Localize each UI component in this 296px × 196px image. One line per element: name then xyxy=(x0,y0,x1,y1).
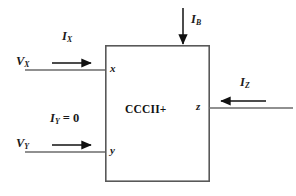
terminal-label-x: x xyxy=(110,63,116,74)
vy-label: VY xyxy=(16,137,29,150)
vx-label: VX xyxy=(16,55,30,68)
terminal-label-z: z xyxy=(196,101,200,112)
ix-label: IX xyxy=(62,30,72,43)
diagram-canvas xyxy=(0,0,296,196)
ib-label: IB xyxy=(191,13,201,26)
vx-subscript: X xyxy=(24,60,29,69)
iz-subscript: Z xyxy=(245,81,250,90)
iz-label: IZ xyxy=(240,76,250,89)
vy-subscript: Y xyxy=(24,142,29,151)
cccii-block-diagram: CCCII+ x y z VX VY IX IY = 0 IB IZ xyxy=(0,0,296,196)
iy-subscript: Y xyxy=(55,117,60,126)
ix-subscript: X xyxy=(67,35,72,44)
ib-subscript: B xyxy=(196,18,201,27)
block-label: CCCII+ xyxy=(125,103,167,115)
iy-label: IY = 0 xyxy=(50,112,79,125)
iy-equals-zero: = 0 xyxy=(60,111,80,125)
terminal-label-y: y xyxy=(110,145,115,156)
